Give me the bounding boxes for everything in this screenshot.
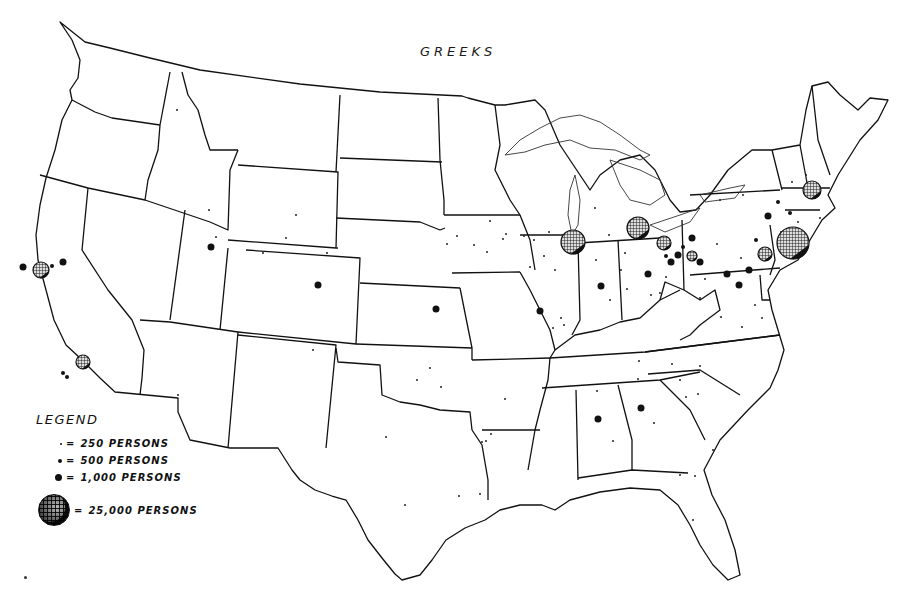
dot-250 bbox=[554, 269, 556, 271]
border-ks-ok bbox=[356, 344, 472, 348]
dot-250 bbox=[489, 220, 491, 222]
dot-1000 bbox=[60, 259, 67, 266]
dot-250 bbox=[653, 422, 655, 424]
dot-250 bbox=[679, 379, 681, 381]
dot-250 bbox=[523, 235, 525, 237]
dot-250 bbox=[458, 495, 460, 497]
dot-250 bbox=[473, 244, 475, 246]
dot-250 bbox=[208, 209, 210, 211]
dot-250 bbox=[485, 440, 487, 442]
legend-row-1000: = 1,000 PERSONS bbox=[36, 469, 198, 486]
dot-250 bbox=[699, 365, 701, 367]
lake-michigan bbox=[568, 175, 580, 235]
dot-250 bbox=[594, 207, 596, 209]
legend-row-500: = 500 PERSONS bbox=[36, 452, 198, 469]
border-al-ga bbox=[618, 385, 632, 470]
dot-1000 bbox=[645, 271, 652, 278]
legend-row-25000: = 25,000 PERSONS bbox=[36, 490, 198, 530]
dot-1000 bbox=[595, 416, 602, 423]
dot-250 bbox=[326, 252, 328, 254]
border-ut-az bbox=[170, 322, 238, 332]
dot-1000 bbox=[724, 271, 731, 278]
border-oh-wv bbox=[660, 282, 684, 300]
border-ut-co bbox=[220, 248, 228, 330]
dot-500 bbox=[788, 211, 792, 215]
dot-250 bbox=[679, 474, 681, 476]
dot-1000 bbox=[20, 264, 27, 271]
dot-1000 bbox=[668, 259, 675, 266]
dot-250 bbox=[479, 493, 481, 495]
dot-250 bbox=[285, 237, 287, 239]
dot-1000 bbox=[598, 283, 605, 290]
dot-250 bbox=[543, 255, 545, 257]
equals-sign: = bbox=[66, 438, 75, 449]
border-ne-ks bbox=[360, 283, 460, 288]
dot-250 bbox=[446, 243, 448, 245]
border-wa-or bbox=[72, 100, 160, 125]
border-pa-md bbox=[690, 268, 780, 275]
border-mo bbox=[460, 272, 555, 360]
dot-250 bbox=[612, 440, 614, 442]
dot-250 bbox=[791, 181, 793, 183]
dot-250 bbox=[697, 393, 699, 395]
legend-label: 500 PERSONS bbox=[80, 455, 169, 466]
dot-250 bbox=[719, 199, 721, 201]
dot-250 bbox=[595, 259, 597, 261]
dot-1000 bbox=[765, 213, 772, 220]
dot-1000 bbox=[675, 252, 682, 259]
dot-1000 bbox=[433, 306, 440, 313]
border-az-nm bbox=[228, 332, 238, 448]
dot-250 bbox=[490, 433, 492, 435]
dot-250 bbox=[548, 231, 550, 233]
dot-250 bbox=[176, 109, 178, 111]
dot-250 bbox=[742, 194, 744, 196]
border-mt-nd bbox=[336, 95, 340, 172]
dot-250 bbox=[624, 252, 626, 254]
dot-250 bbox=[440, 386, 442, 388]
border-ga-fl bbox=[578, 470, 688, 478]
dot-250 bbox=[740, 257, 742, 259]
legend-title: LEGEND bbox=[36, 412, 198, 427]
border-nm bbox=[238, 335, 336, 448]
dot-250 bbox=[505, 233, 507, 235]
dot-250 bbox=[620, 269, 622, 271]
dot-1000 bbox=[315, 282, 322, 289]
border-il-in bbox=[572, 242, 580, 335]
dot-250 bbox=[608, 234, 610, 236]
border-me-nh bbox=[812, 86, 830, 175]
dot-250 bbox=[797, 221, 799, 223]
equals-sign: = bbox=[66, 472, 75, 483]
legend-label: 1,000 PERSONS bbox=[80, 472, 181, 483]
dot-1000 bbox=[746, 267, 753, 274]
dot-500 bbox=[61, 371, 65, 375]
border-tn-south bbox=[542, 372, 700, 388]
border-mn-wi bbox=[495, 105, 520, 215]
dot-250 bbox=[665, 276, 667, 278]
legend: LEGEND = 250 PERSONS = 500 PERSONS = 1,0… bbox=[36, 412, 198, 530]
border-sd-ne bbox=[336, 218, 445, 230]
dot-250 bbox=[761, 317, 763, 319]
dot-250 bbox=[429, 367, 431, 369]
border-ar-ms bbox=[528, 358, 550, 470]
dot-250 bbox=[626, 288, 628, 290]
dot-250 bbox=[481, 441, 483, 443]
great-lakes bbox=[505, 115, 745, 235]
border-oh-pa bbox=[682, 220, 684, 290]
dot-250 bbox=[699, 297, 701, 299]
dot-250 bbox=[262, 252, 264, 254]
border-nd-mn bbox=[438, 98, 444, 215]
dot-250 bbox=[502, 238, 504, 240]
border-ut-wy bbox=[210, 150, 238, 230]
dot-250 bbox=[609, 299, 611, 301]
dot-500 bbox=[754, 238, 758, 242]
dot-250 bbox=[650, 294, 652, 296]
dot-250 bbox=[533, 239, 535, 241]
lake-huron bbox=[610, 160, 665, 205]
dot-250 bbox=[720, 316, 722, 318]
dot-250 bbox=[336, 247, 338, 249]
border-ia-il bbox=[520, 215, 535, 270]
lake-erie bbox=[650, 208, 700, 232]
border-wy bbox=[228, 165, 338, 248]
dot-250 bbox=[312, 349, 314, 351]
dot-250 bbox=[295, 214, 297, 216]
